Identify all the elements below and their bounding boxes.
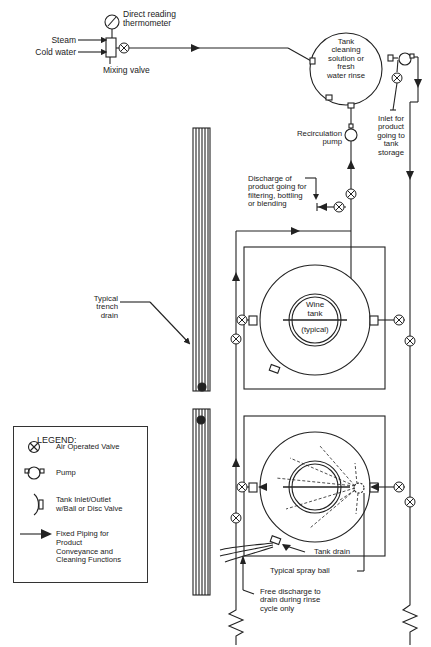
air-valve-icon — [405, 497, 415, 507]
free-discharge-label: Free discharge to drain during rinse cyc… — [260, 588, 321, 613]
legend-item-label: Air Operated Valve — [56, 443, 120, 452]
air-valve-icon — [237, 482, 247, 492]
inlet-product-label: Inlet for product going to tank storage — [366, 115, 416, 157]
air-valve-icon — [394, 315, 404, 325]
thermometer-label: Direct reading thermometer — [123, 10, 176, 28]
legend-item-label: Pump — [56, 469, 76, 478]
mixing-valve-icon — [106, 38, 116, 57]
steam-label: Steam — [46, 36, 76, 45]
spray-ball-label: Typical spray ball — [270, 566, 330, 575]
mixing-valve-label: Mixing valve — [103, 66, 150, 75]
air-valve-icon — [394, 482, 404, 492]
trench-drain — [193, 128, 210, 595]
air-valve-icon — [392, 73, 402, 83]
air-valve-icon — [29, 442, 40, 453]
air-valve-icon — [119, 43, 129, 53]
thermometer-icon — [105, 15, 119, 38]
air-valve-icon — [334, 202, 344, 212]
legend-item-label: Fixed Piping for Product Conveyance and … — [56, 530, 121, 565]
tank-drain-label: Tank drain — [314, 547, 350, 556]
legend-symbols — [14, 427, 54, 577]
pump-icon — [399, 53, 414, 65]
flow-arrow-icon — [20, 529, 52, 539]
wine-tank-label: Wine tank — [295, 301, 335, 318]
air-valve-icon — [346, 189, 356, 199]
air-valve-icon — [231, 334, 241, 344]
legend: LEGEND: Air Operated Valve Pump Tank Inl… — [13, 426, 148, 583]
legend-item-label: Tank Inlet/Outlet w/Ball or Disc Valve — [56, 496, 123, 514]
pump-icon — [25, 467, 44, 479]
discharge-product-label: Discharge of product going for filtering… — [248, 175, 307, 209]
wine-tank-note: (typical) — [292, 325, 338, 334]
air-valve-icon — [237, 315, 247, 325]
trench-drain-label: Typical trench drain — [82, 295, 118, 320]
recirculation-pump-icon — [345, 129, 357, 141]
tank-inlet-icon — [34, 494, 43, 515]
recirculation-pump-label: Recirculation pump — [276, 130, 342, 147]
cold-water-label: Cold water — [20, 48, 76, 57]
air-valve-icon — [231, 513, 241, 523]
cleaning-tank-label: Tank cleaning solution or fresh water ri… — [316, 38, 376, 80]
air-valve-icon — [405, 336, 415, 346]
